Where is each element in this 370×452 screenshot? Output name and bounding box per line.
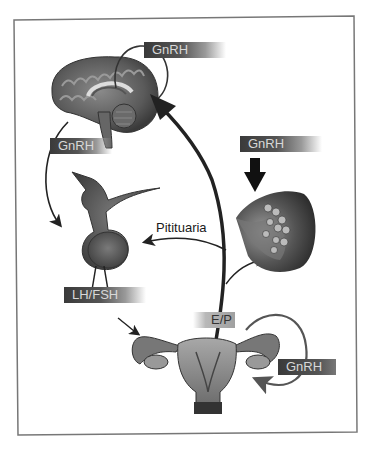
uterus-illustration bbox=[132, 334, 279, 414]
pituitary-illustration bbox=[72, 172, 160, 290]
label-gnrh-left: GnRH bbox=[50, 138, 112, 154]
label-pitituaria: Pitituaria bbox=[156, 220, 207, 235]
label-gnrh-top: GnRH bbox=[144, 42, 226, 58]
diagram-stage: GnRH GnRH GnRH LH/FSH E/P GnRH Pitituari… bbox=[0, 0, 370, 452]
label-gnrh-ovary: GnRH bbox=[278, 359, 336, 375]
label-gnrh-breast: GnRH bbox=[240, 136, 322, 152]
breast-illustration bbox=[236, 191, 316, 272]
label-lh-fsh: LH/FSH bbox=[64, 287, 146, 303]
down-arrow-icon bbox=[244, 158, 266, 192]
brain-illustration bbox=[52, 57, 158, 148]
label-e-p: E/P bbox=[193, 312, 235, 328]
